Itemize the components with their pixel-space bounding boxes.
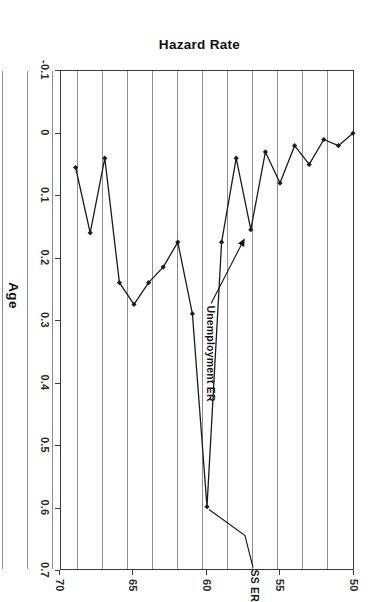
hazard-rate-tick-label: 0.1 [39, 187, 51, 203]
hazard-rate-tick-label: 0.4 [39, 375, 51, 391]
gridline [27, 71, 28, 569]
hazard-rate-tick-mark [55, 508, 60, 509]
data-point-marker [248, 227, 253, 232]
gridline [52, 71, 53, 569]
age-tick-label: 60 [201, 579, 213, 592]
annotation-label-ss-er: SS ER [249, 570, 261, 602]
data-point-marker [263, 149, 268, 154]
hazard-rate-tick-mark [55, 445, 60, 446]
hazard-rate-tick-mark [55, 383, 60, 384]
hazard-rate-tick-mark [55, 133, 60, 134]
data-point-marker [277, 180, 282, 185]
data-point-marker [219, 240, 224, 245]
age-tick-label: 70 [54, 579, 66, 592]
data-point-marker [88, 230, 93, 235]
data-point-marker [204, 504, 209, 509]
hazard-rate-tick-label: 0.2 [39, 250, 51, 266]
hazard-rate-tick-mark [55, 570, 60, 571]
hazard-rate-tick-mark [55, 258, 60, 259]
y-axis-title: Hazard Rate [110, 37, 290, 52]
age-tick-mark [206, 570, 207, 575]
data-point-marker [190, 311, 195, 316]
x-axis-title: Age [6, 0, 21, 591]
age-tick-label: 50 [348, 579, 360, 592]
hazard-rate-tick-label: 0 [39, 129, 51, 135]
age-tick-mark [133, 570, 134, 575]
gridline [2, 71, 3, 569]
age-tick-label: 55 [275, 579, 287, 592]
hazard-rate-tick-label: 0.7 [39, 562, 51, 578]
hazard-rate-tick-label: -0.1 [39, 60, 51, 80]
data-point-marker [102, 156, 107, 161]
hazard-rate-tick-label: 0.5 [39, 437, 51, 453]
data-point-marker [73, 165, 78, 170]
age-tick-mark [280, 570, 281, 575]
age-tick-label: 65 [128, 579, 140, 592]
hazard-rate-tick-label: 0.6 [39, 500, 51, 516]
hazard-rate-tick-mark [55, 195, 60, 196]
annotation-label-unemployment-er: Unemployment ER [205, 305, 217, 401]
age-tick-mark [353, 570, 354, 575]
hazard-rate-tick-mark [55, 70, 60, 71]
hazard-rate-tick-label: 0.3 [39, 312, 51, 328]
hazard-rate-tick-mark [55, 320, 60, 321]
data-point-marker [234, 156, 239, 161]
